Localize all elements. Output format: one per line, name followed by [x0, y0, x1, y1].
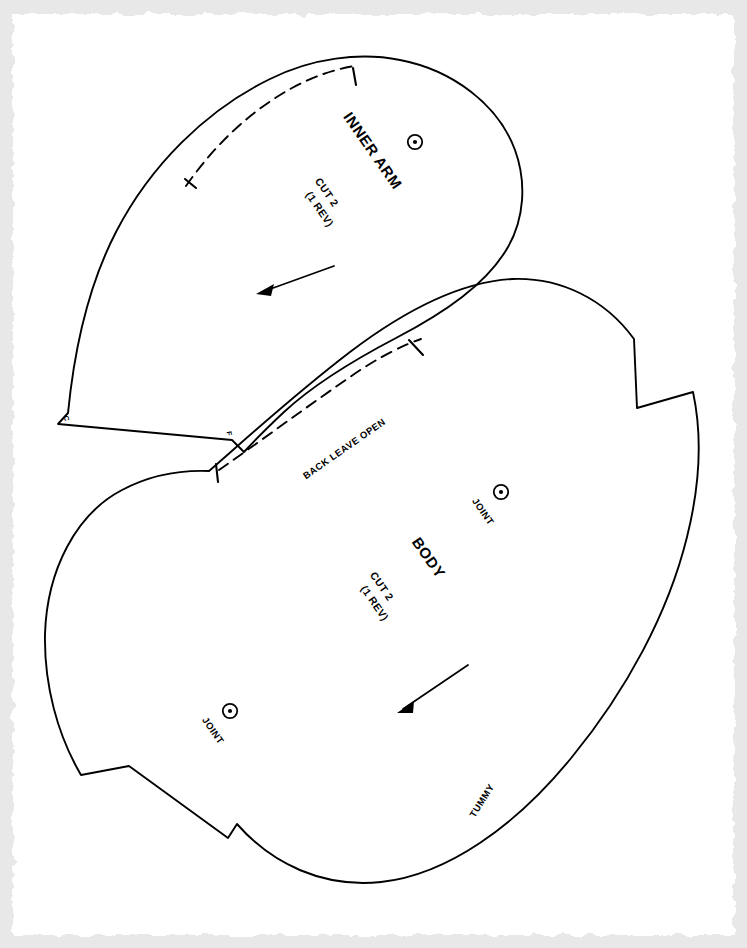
paper-sheet — [13, 14, 734, 935]
pattern-drawing — [0, 0, 747, 948]
pattern-sheet: INNER ARM CUT 2 (1 REV) C F BACK LEAVE O… — [0, 0, 747, 948]
